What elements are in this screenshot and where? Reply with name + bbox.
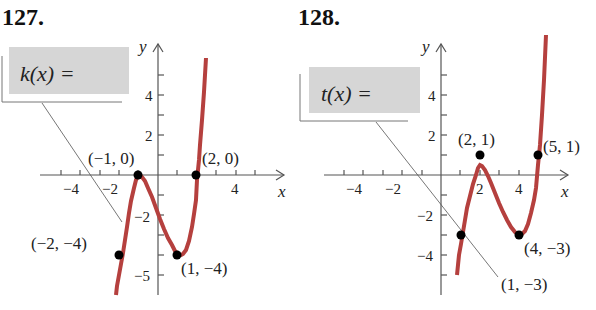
y-tick-label: −4 bbox=[417, 248, 433, 264]
x-tick-label: 4 bbox=[231, 181, 239, 197]
x-tick-label: −4 bbox=[63, 181, 79, 197]
x-tick-label: 4 bbox=[515, 181, 523, 197]
answer-box-128: t(x) = bbox=[300, 67, 420, 121]
point-2-1 bbox=[476, 151, 485, 160]
figure-canvas: k(x) = y x −4 −2 4 4 2 bbox=[0, 0, 596, 310]
point-label: (−1, 0) bbox=[88, 149, 134, 168]
y-axis-label-128: y bbox=[420, 37, 430, 56]
y-tick-label: −5 bbox=[134, 268, 150, 284]
x-tick-label: −2 bbox=[385, 181, 401, 197]
x-tick-label: −2 bbox=[102, 181, 118, 197]
function-label-t: t(x) = bbox=[321, 81, 372, 106]
point-label: (2, 1) bbox=[458, 130, 495, 149]
y-tick-label: −2 bbox=[417, 208, 433, 224]
chart-128: t(x) = y x −4 −2 2 4 4 2 −2 −4 bbox=[300, 35, 580, 295]
point-label: (−2, −4) bbox=[31, 234, 87, 253]
point-5-1 bbox=[534, 151, 543, 160]
point-label: (4, −3) bbox=[524, 239, 570, 258]
point-label: (1, −4) bbox=[181, 259, 227, 278]
point-label: (5, 1) bbox=[543, 137, 580, 156]
answer-box-127: k(x) = bbox=[2, 47, 129, 102]
point-1-neg3 bbox=[457, 231, 466, 240]
function-label-k: k(x) = bbox=[20, 61, 75, 86]
y-tick-label: 2 bbox=[428, 128, 436, 144]
x-axis-label-128: x bbox=[560, 182, 569, 201]
x-axis-label-127: x bbox=[277, 182, 286, 201]
x-tick-label: 2 bbox=[476, 181, 484, 197]
point-4-neg3 bbox=[515, 231, 524, 240]
point-label: (2, 0) bbox=[202, 149, 239, 168]
y-tick-label: 4 bbox=[428, 88, 436, 104]
y-tick-label: 4 bbox=[145, 88, 153, 104]
x-tick-label: −4 bbox=[346, 181, 362, 197]
point-label: (1, −3) bbox=[501, 275, 547, 294]
y-axis-label-127: y bbox=[137, 37, 147, 56]
point-neg2-neg4 bbox=[115, 251, 124, 260]
chart-127: k(x) = y x −4 −2 4 4 2 bbox=[2, 37, 286, 295]
y-tick-label: −2 bbox=[134, 209, 150, 225]
y-tick-label: 2 bbox=[145, 128, 153, 144]
point-neg1-0 bbox=[134, 171, 143, 180]
point-2-0 bbox=[192, 171, 201, 180]
